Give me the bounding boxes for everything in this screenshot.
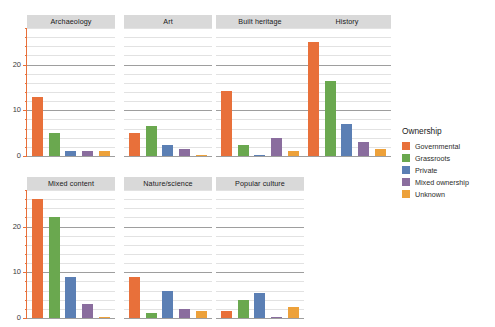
bar[interactable]: [196, 311, 207, 318]
legend-item[interactable]: Governmental: [402, 140, 469, 152]
bar[interactable]: [179, 309, 190, 318]
bar[interactable]: [146, 313, 157, 318]
facet-strip-label: Nature/science: [124, 177, 212, 190]
facet-panel: [124, 190, 212, 318]
facet-strip-label: Popular culture: [216, 177, 304, 190]
facet-panel: [303, 28, 391, 156]
bar-group: [27, 190, 115, 318]
y-tick-label: 10: [13, 105, 21, 114]
legend-swatch-icon: [402, 178, 410, 186]
legend-item-label: Governmental: [415, 142, 460, 151]
bar[interactable]: [65, 151, 76, 156]
bar[interactable]: [49, 217, 60, 318]
bar[interactable]: [196, 155, 207, 156]
legend-items: GovernmentalGrassrootsPrivateMixed owner…: [402, 140, 469, 200]
gridline-major: [124, 156, 212, 157]
y-axis-top-row: 01020: [8, 28, 27, 156]
bar[interactable]: [129, 277, 140, 318]
legend-item[interactable]: Unknown: [402, 188, 469, 200]
gridline-major: [216, 156, 304, 157]
facet-nature-science: Nature/science: [124, 177, 212, 318]
facet-panel: [216, 28, 304, 156]
y-tick-label: 0: [17, 151, 21, 160]
bar[interactable]: [82, 151, 93, 156]
bar[interactable]: [254, 155, 265, 156]
facet-panel: [27, 28, 115, 156]
bar[interactable]: [288, 307, 299, 318]
bar[interactable]: [288, 151, 299, 156]
bar[interactable]: [32, 199, 43, 318]
gridline-major: [27, 318, 115, 319]
bar[interactable]: [341, 124, 352, 156]
y-tick-label: 20: [13, 60, 21, 69]
facet-panel: [124, 28, 212, 156]
bar-group: [303, 28, 391, 156]
bar[interactable]: [325, 81, 336, 156]
bar[interactable]: [238, 145, 249, 156]
bar[interactable]: [221, 311, 232, 318]
bar-group: [124, 190, 212, 318]
facet-strip-label: History: [303, 15, 391, 28]
bar[interactable]: [65, 277, 76, 318]
legend: Ownership GovernmentalGrassrootsPrivateM…: [402, 126, 469, 200]
bar[interactable]: [49, 133, 60, 156]
bar[interactable]: [271, 317, 282, 318]
bar[interactable]: [308, 42, 319, 156]
facet-strip-label: Archaeology: [27, 15, 115, 28]
bar[interactable]: [129, 133, 140, 156]
facet-panel: [27, 190, 115, 318]
legend-item-label: Private: [415, 166, 437, 175]
legend-title: Ownership: [402, 126, 469, 136]
bar[interactable]: [162, 145, 173, 156]
gridline-major: [124, 318, 212, 319]
facet-panel: [216, 190, 304, 318]
legend-swatch-icon: [402, 166, 410, 174]
bar[interactable]: [375, 149, 386, 156]
bar[interactable]: [271, 138, 282, 156]
y-tick-label: 10: [13, 267, 21, 276]
bar[interactable]: [99, 317, 110, 318]
bar[interactable]: [82, 304, 93, 318]
bar-group: [124, 28, 212, 156]
facet-strip-label: Art: [124, 15, 212, 28]
bar-group: [216, 28, 304, 156]
legend-swatch-icon: [402, 190, 410, 198]
bar-group: [216, 190, 304, 318]
bar[interactable]: [179, 149, 190, 156]
y-tick-label: 20: [13, 222, 21, 231]
bar[interactable]: [254, 293, 265, 318]
y-tick-label: 0: [17, 313, 21, 322]
facet-history: History: [303, 15, 391, 156]
facet-strip-label: Built heritage: [216, 15, 304, 28]
facet-popular-culture: Popular culture: [216, 177, 304, 318]
bar[interactable]: [32, 97, 43, 156]
bar[interactable]: [358, 142, 369, 156]
facet-archaeology: Archaeology: [27, 15, 115, 156]
legend-item[interactable]: Private: [402, 164, 469, 176]
legend-item-label: Unknown: [415, 190, 445, 199]
facet-strip-label: Mixed content: [27, 177, 115, 190]
gridline-major: [216, 318, 304, 319]
bar[interactable]: [146, 126, 157, 156]
y-axis-bottom-row: 01020: [8, 190, 27, 318]
gridline-major: [27, 156, 115, 157]
bar[interactable]: [162, 291, 173, 318]
legend-item[interactable]: Grassroots: [402, 152, 469, 164]
legend-swatch-icon: [402, 142, 410, 150]
legend-swatch-icon: [402, 154, 410, 162]
facet-art: Art: [124, 15, 212, 156]
bar[interactable]: [99, 151, 110, 156]
bar-group: [27, 28, 115, 156]
legend-item[interactable]: Mixed ownership: [402, 176, 469, 188]
bar[interactable]: [238, 300, 249, 318]
chart-canvas: 01020 01020 ArchaeologyArtBuilt heritage…: [0, 0, 495, 327]
facet-mixed-content: Mixed content: [27, 177, 115, 318]
legend-item-label: Mixed ownership: [415, 178, 469, 187]
gridline-major: [303, 156, 391, 157]
bar[interactable]: [221, 91, 232, 156]
facet-built-heritage: Built heritage: [216, 15, 304, 156]
legend-item-label: Grassroots: [415, 154, 450, 163]
